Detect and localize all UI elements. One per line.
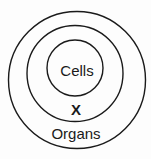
label-cells: Cells <box>60 62 93 79</box>
label-organs: Organs <box>51 125 100 142</box>
label-x: X <box>71 101 81 118</box>
concentric-diagram: Cells X Organs <box>0 0 151 159</box>
